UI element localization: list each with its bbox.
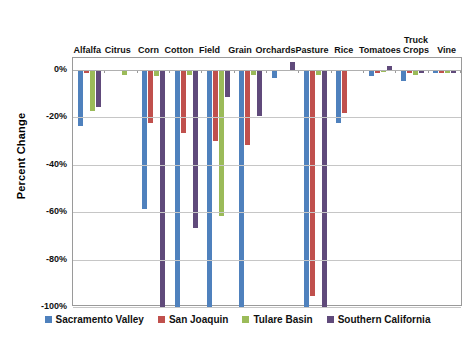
bar-slot xyxy=(381,58,386,305)
legend-swatch-icon xyxy=(45,316,52,323)
bar-slot xyxy=(142,58,147,305)
bar-slot xyxy=(187,58,192,305)
x-category-label-alfalfa: Alfalfa xyxy=(72,6,103,56)
bar-slot xyxy=(419,58,424,305)
bar-slot xyxy=(257,58,262,305)
bar-slot xyxy=(433,58,438,305)
bar-southern-california[interactable] xyxy=(225,70,230,97)
bar-group xyxy=(73,58,105,305)
bar-slot xyxy=(78,58,83,305)
bar-sacramento-valley[interactable] xyxy=(336,70,341,123)
bar-slot xyxy=(304,58,309,305)
bar-group xyxy=(105,58,137,305)
legend-swatch-icon xyxy=(158,316,165,323)
bar-sacramento-valley[interactable] xyxy=(207,70,212,307)
bar-slot xyxy=(213,58,218,305)
bar-slot xyxy=(90,58,95,305)
bar-sacramento-valley[interactable] xyxy=(239,70,244,307)
bar-slot xyxy=(239,58,244,305)
bar-southern-california[interactable] xyxy=(290,62,295,70)
bar-slot xyxy=(290,58,295,305)
bar-tulare-basin[interactable] xyxy=(90,70,95,112)
bar-slot xyxy=(96,58,101,305)
bar-slot xyxy=(207,58,212,305)
x-category-label-tomatoes: Tomatoes xyxy=(359,6,401,56)
bar-group xyxy=(138,58,170,305)
bar-southern-california[interactable] xyxy=(193,70,198,228)
bar-slot xyxy=(175,58,180,305)
bar-sacramento-valley[interactable] xyxy=(142,70,147,209)
bar-slot xyxy=(354,58,359,305)
bar-southern-california[interactable] xyxy=(257,70,262,116)
bar-slot xyxy=(407,58,412,305)
bar-slot xyxy=(225,58,230,305)
gridline xyxy=(73,117,461,118)
bar-groups xyxy=(73,58,461,305)
bar-slot xyxy=(245,58,250,305)
y-tick-label: -80% xyxy=(46,254,67,264)
bar-san-joaquin[interactable] xyxy=(245,70,250,145)
x-category-label-cotton: Cotton xyxy=(164,6,195,56)
bar-sacramento-valley[interactable] xyxy=(304,70,309,307)
bar-southern-california[interactable] xyxy=(322,70,327,307)
bar-slot xyxy=(322,58,327,305)
bar-san-joaquin[interactable] xyxy=(181,70,186,133)
bar-group xyxy=(267,58,299,305)
legend-swatch-icon xyxy=(327,316,334,323)
bar-slot xyxy=(110,58,115,305)
bar-slot xyxy=(160,58,165,305)
legend-item[interactable]: Tulare Basin xyxy=(242,314,312,325)
bar-sacramento-valley[interactable] xyxy=(175,70,180,307)
y-tick-label: -60% xyxy=(46,206,67,216)
bar-slot xyxy=(369,58,374,305)
bar-group xyxy=(202,58,234,305)
bar-southern-california[interactable] xyxy=(96,70,101,107)
bar-slot xyxy=(128,58,133,305)
bar-group xyxy=(364,58,396,305)
bar-group xyxy=(170,58,202,305)
legend-item[interactable]: San Joaquin xyxy=(158,314,228,325)
bar-slot xyxy=(278,58,283,305)
bar-san-joaquin[interactable] xyxy=(310,70,315,296)
gridline xyxy=(73,212,461,213)
gridline xyxy=(73,260,461,261)
x-category-label-truck-crops: Truck Crops xyxy=(401,6,432,56)
legend-label: Tulare Basin xyxy=(253,314,312,325)
x-category-label-pasture: Pasture xyxy=(295,6,328,56)
bar-slot xyxy=(181,58,186,305)
y-tick-label: -40% xyxy=(46,159,67,169)
bar-slot xyxy=(375,58,380,305)
bar-group xyxy=(299,58,331,305)
x-category-label-vine: Vine xyxy=(431,6,462,56)
bar-slot xyxy=(122,58,127,305)
bar-southern-california[interactable] xyxy=(160,70,165,307)
bar-slot xyxy=(84,58,89,305)
bar-slot xyxy=(193,58,198,305)
bar-sacramento-valley[interactable] xyxy=(272,70,277,78)
y-tick-label: 0% xyxy=(54,64,67,74)
bar-sacramento-valley[interactable] xyxy=(401,70,406,81)
bar-san-joaquin[interactable] xyxy=(148,70,153,123)
bar-slot xyxy=(251,58,256,305)
legend-item[interactable]: Sacramento Valley xyxy=(45,314,144,325)
bar-slot xyxy=(445,58,450,305)
bar-tulare-basin[interactable] xyxy=(219,70,224,216)
bar-slot xyxy=(336,58,341,305)
legend-item[interactable]: Southern California xyxy=(327,314,431,325)
x-axis-category-labels: AlfalfaCitrusCornCottonFieldGrainOrchard… xyxy=(72,6,462,56)
bar-slot xyxy=(451,58,456,305)
x-category-label-orchards: Orchards xyxy=(255,6,295,56)
bar-slot xyxy=(272,58,277,305)
x-category-label-grain: Grain xyxy=(225,6,256,56)
bar-slot xyxy=(154,58,159,305)
bar-san-joaquin[interactable] xyxy=(213,70,218,141)
x-category-label-field: Field xyxy=(194,6,225,56)
bar-slot xyxy=(387,58,392,305)
bar-slot xyxy=(413,58,418,305)
bar-group xyxy=(332,58,364,305)
bar-slot xyxy=(401,58,406,305)
bar-slot xyxy=(316,58,321,305)
bar-group xyxy=(396,58,428,305)
x-category-label-rice: Rice xyxy=(328,6,359,56)
bar-san-joaquin[interactable] xyxy=(342,70,347,113)
